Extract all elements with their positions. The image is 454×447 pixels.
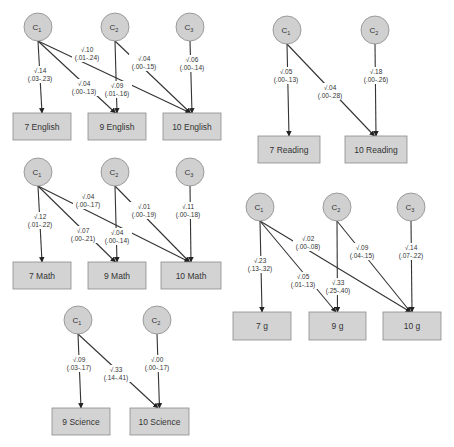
confidence-interval: (.00-.28) [318, 92, 343, 100]
latent-class-c1: C1 [24, 158, 52, 186]
observed-9-g: 9 g [309, 312, 366, 340]
observed-9-science: 9 Science [52, 408, 110, 435]
confidence-interval: (.03-.17) [67, 364, 92, 372]
observed-7-reading: 7 Reading [258, 136, 320, 163]
observed-label: 10 English [172, 122, 212, 132]
confidence-interval: (.00-.13) [72, 88, 97, 96]
confidence-interval: (.00-.17) [76, 201, 101, 209]
confidence-interval: (.04-.15) [350, 252, 375, 260]
estimate-value: √.04 [138, 55, 151, 62]
path-estimate-label: √.10(.01-.24) [72, 45, 102, 62]
path-estimate-label: √.04(.00-.17) [73, 192, 103, 209]
latent-class-c2: C2 [323, 193, 351, 221]
path-estimate-label: √.05(.01-.13) [288, 272, 318, 289]
estimate-value: √.04 [111, 229, 124, 236]
path-math-c2-to-9-math [115, 186, 117, 262]
observed-label: 7 Reading [270, 145, 309, 155]
estimate-value: √.00 [151, 356, 164, 363]
path-math-c1-to-10-math [38, 186, 190, 262]
estimate-value: √.33 [332, 279, 345, 286]
estimate-value: √.14 [405, 244, 418, 251]
estimate-value: √.11 [182, 203, 195, 210]
latent-class-c1: C1 [273, 16, 301, 44]
latent-class-c2: C2 [143, 306, 171, 334]
confidence-interval: (.01-.13) [291, 281, 316, 289]
confidence-interval: (.07-.22) [399, 252, 424, 260]
path-estimate-label: √.11(.00-.18) [173, 202, 203, 219]
path-estimate-label: √.18(.00-.26) [361, 67, 391, 84]
path-estimate-label: √.04(.00-.28) [315, 83, 345, 100]
observed-label: 7 g [256, 321, 268, 331]
estimate-value: √.33 [110, 366, 123, 373]
path-g-c1-to-10-g [260, 221, 411, 312]
confidence-interval: (.00-.15) [132, 63, 157, 71]
confidence-interval: (.00-.18) [176, 211, 201, 219]
confidence-interval: (.00-.14) [180, 64, 205, 72]
latent-class-c2: C2 [101, 13, 129, 41]
estimate-value: √.04 [324, 84, 337, 91]
confidence-interval: (.00-.13) [274, 76, 299, 84]
observed-7-g: 7 g [233, 312, 291, 340]
path-english-c1-to-10-english [38, 41, 191, 113]
observed-label: 10 Math [176, 271, 207, 281]
confidence-interval: (.01-.24) [75, 54, 100, 62]
path-estimate-label: √.09(.03-.17) [64, 355, 94, 372]
estimate-value: √.01 [138, 203, 151, 210]
observed-label: 7 English [25, 122, 60, 132]
observed-9-english: 9 English [88, 113, 146, 140]
path-estimate-label: √.06(.00-.14) [177, 55, 207, 72]
estimate-value: √.05 [297, 273, 310, 280]
confidence-interval: (.25-.40) [326, 287, 351, 295]
latent-class-c1: C1 [24, 13, 52, 41]
observed-label: 10 g [404, 321, 421, 331]
observed-9-math: 9 Math [88, 262, 146, 289]
path-estimate-label: √.09(.04-.15) [347, 243, 377, 260]
observed-label: 10 Science [138, 417, 180, 427]
estimate-value: √.12 [34, 213, 47, 220]
path-estimate-label: √.07(.00-.21) [68, 226, 98, 243]
path-estimate-label: √.33(.14-.41) [101, 365, 131, 382]
observed-10-english: 10 English [163, 113, 221, 140]
path-estimate-label: √.09(.01-.16) [102, 81, 132, 98]
confidence-interval: (.03-.23) [28, 75, 53, 83]
observed-label: 9 Math [104, 271, 130, 281]
estimate-value: √.04 [82, 193, 95, 200]
path-estimate-label: √.04(.00-.15) [129, 54, 159, 71]
path-english-c2-to-10-english [115, 41, 191, 113]
estimate-value: √.05 [280, 68, 293, 75]
latent-class-c1: C1 [246, 193, 274, 221]
observed-label: 9 Science [62, 417, 100, 427]
estimate-value: √.09 [356, 244, 369, 251]
observed-label: 10 Reading [354, 145, 398, 155]
latent-class-c2: C2 [361, 16, 389, 44]
confidence-interval: (.00-.14) [105, 237, 130, 245]
path-reading-c1-to-7-reading [287, 44, 289, 136]
estimate-value: √.09 [73, 356, 86, 363]
estimate-value: √.23 [254, 257, 267, 264]
estimate-value: √.06 [186, 56, 199, 63]
confidence-interval: (.00-.26) [364, 76, 389, 84]
latent-class-c3: C3 [176, 158, 204, 186]
observed-label: 9 g [332, 321, 344, 331]
confidence-interval: (.00-.17) [145, 364, 170, 372]
latent-class-c3: C3 [176, 13, 204, 41]
path-estimate-label: √.33(.25-.40) [323, 278, 353, 295]
path-math-c3-to-10-math [190, 186, 191, 262]
observed-10-reading: 10 Reading [345, 136, 407, 163]
observed-label: 7 Math [29, 271, 55, 281]
path-estimate-label: √.12(.01-.22) [25, 212, 55, 229]
confidence-interval: (.01-.16) [105, 90, 130, 98]
observed-7-math: 7 Math [13, 262, 71, 289]
estimate-value: √.14 [34, 67, 47, 74]
latent-class-c3: C3 [397, 193, 425, 221]
path-estimate-label: √.05(.00-.13) [271, 67, 301, 84]
observed-10-science: 10 Science [130, 408, 189, 435]
path-estimate-label: √.02(.00-.08) [293, 234, 323, 251]
observed-label: 9 English [100, 122, 135, 132]
confidence-interval: (.14-.41) [104, 374, 129, 382]
path-estimate-label: √.23(.13-.32) [245, 256, 275, 273]
path-diagram: √.14(.03-.23)√.04(.00-.13)√.10(.01-.24)√… [0, 0, 454, 447]
path-english-c3-to-10-english [190, 41, 192, 113]
confidence-interval: (.01-.22) [28, 221, 53, 229]
path-g-c2-to-9-g [337, 221, 338, 312]
